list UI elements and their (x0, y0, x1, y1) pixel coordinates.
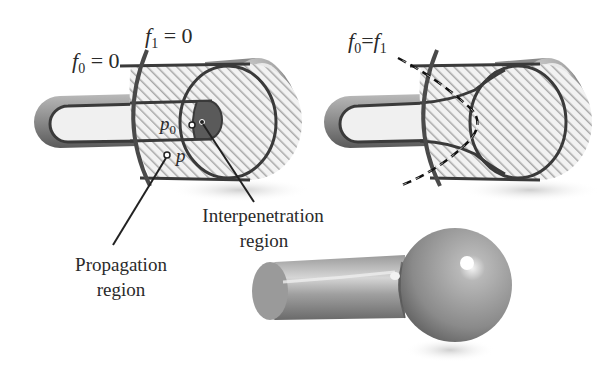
label-p: p (174, 145, 186, 166)
label-propagation-line1: Propagation (75, 254, 167, 275)
label-interpenetration-line2: region (240, 230, 289, 251)
label-propagation-line2: region (97, 279, 146, 300)
label-f0-zero: f0 = 0 (72, 48, 120, 76)
diagram-canvas: f0 = 0 f1 = 0 p0 p f0=f1 (0, 0, 605, 370)
blended-rod-cap (252, 262, 288, 320)
blended-sphere (398, 228, 512, 342)
sphere-highlight (460, 256, 474, 270)
blended-result-object (252, 228, 512, 362)
interpenetration-region (193, 101, 222, 139)
point-p (164, 152, 170, 158)
point-p0 (189, 122, 195, 128)
propagation-leader-line (113, 158, 166, 245)
label-interpenetration-line1: Interpenetration (202, 205, 324, 226)
rod-highlight (390, 272, 400, 280)
label-f1-zero: f1 = 0 (145, 23, 193, 51)
label-f0-equals-f1: f0=f1 (348, 28, 387, 56)
